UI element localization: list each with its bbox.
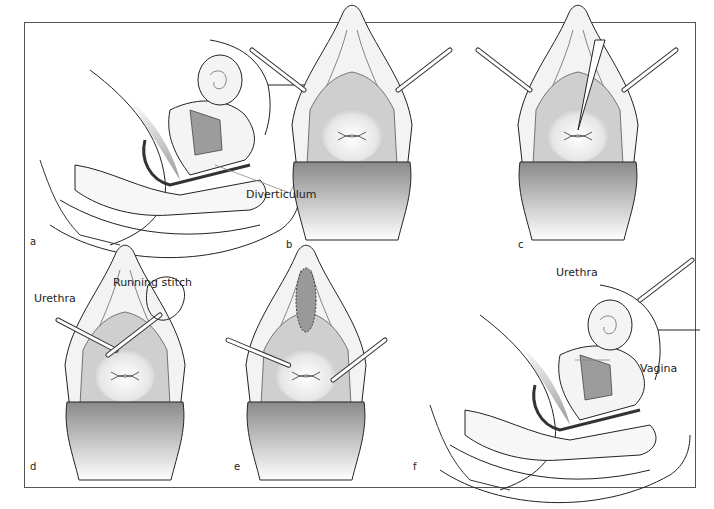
panel-label-f: f (413, 461, 417, 472)
panel-label-e: e (234, 461, 240, 472)
vagina-label: Vagina (640, 362, 677, 375)
urethra-label-f: Urethra (556, 266, 598, 279)
panel-label-a: a (30, 236, 36, 247)
diverticulum-label: Diverticulum (246, 188, 316, 201)
illustration (0, 0, 714, 509)
running-stitch-label: Running stitch (113, 276, 192, 289)
panel-label-b: b (286, 239, 292, 250)
panel-label-c: c (518, 239, 524, 250)
urethra-label-d: Urethra (34, 292, 76, 305)
panel-label-d: d (30, 461, 36, 472)
